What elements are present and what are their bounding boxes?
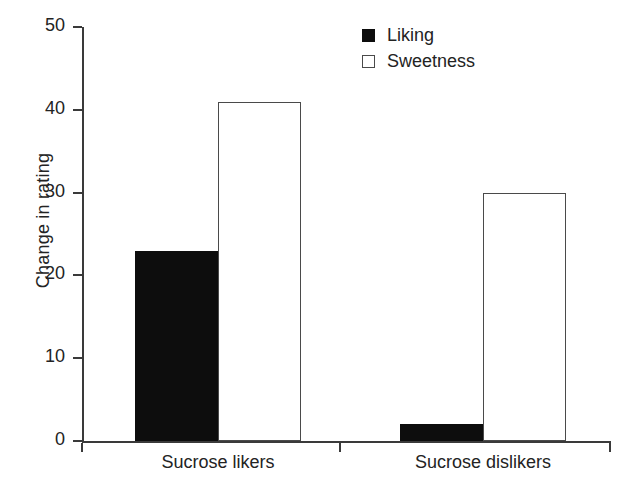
legend-swatch-filled-square-icon bbox=[362, 29, 375, 42]
y-tick-0 bbox=[73, 440, 82, 442]
x-category-label-0: Sucrose likers bbox=[108, 452, 328, 473]
y-tick-label: 30 bbox=[5, 182, 65, 200]
y-tick-50 bbox=[73, 26, 82, 28]
y-tick-10 bbox=[73, 357, 82, 359]
y-tick-label: 20 bbox=[5, 264, 65, 282]
y-tick-label: 10 bbox=[5, 347, 65, 365]
x-tick-0 bbox=[81, 443, 83, 452]
legend-label: Liking bbox=[387, 25, 434, 46]
chart-figure: Change in rating 01020304050 Sucrose lik… bbox=[0, 0, 628, 486]
y-tick-label: 50 bbox=[5, 16, 65, 34]
y-axis-line bbox=[82, 27, 84, 443]
legend-item-sweetness: Sweetness bbox=[362, 48, 475, 74]
x-axis-line bbox=[82, 441, 611, 443]
y-tick-20 bbox=[73, 274, 82, 276]
y-tick-label: 40 bbox=[5, 99, 65, 117]
y-tick-30 bbox=[73, 192, 82, 194]
bar-liking-sucrose-dislikers bbox=[400, 424, 483, 441]
x-category-label-1: Sucrose dislikers bbox=[373, 452, 593, 473]
y-axis-title: Change in rating bbox=[33, 91, 54, 351]
x-tick-2 bbox=[609, 443, 611, 452]
bar-sweetness-sucrose-likers bbox=[218, 102, 301, 441]
y-tick-40 bbox=[73, 109, 82, 111]
legend-item-liking: Liking bbox=[362, 22, 475, 48]
chart-legend: LikingSweetness bbox=[362, 22, 475, 74]
legend-swatch-open-square-icon bbox=[362, 55, 375, 68]
y-tick-label: 0 bbox=[5, 430, 65, 448]
bar-sweetness-sucrose-dislikers bbox=[483, 193, 566, 441]
legend-label: Sweetness bbox=[387, 51, 475, 72]
bar-liking-sucrose-likers bbox=[135, 251, 218, 441]
x-tick-1 bbox=[339, 443, 341, 452]
